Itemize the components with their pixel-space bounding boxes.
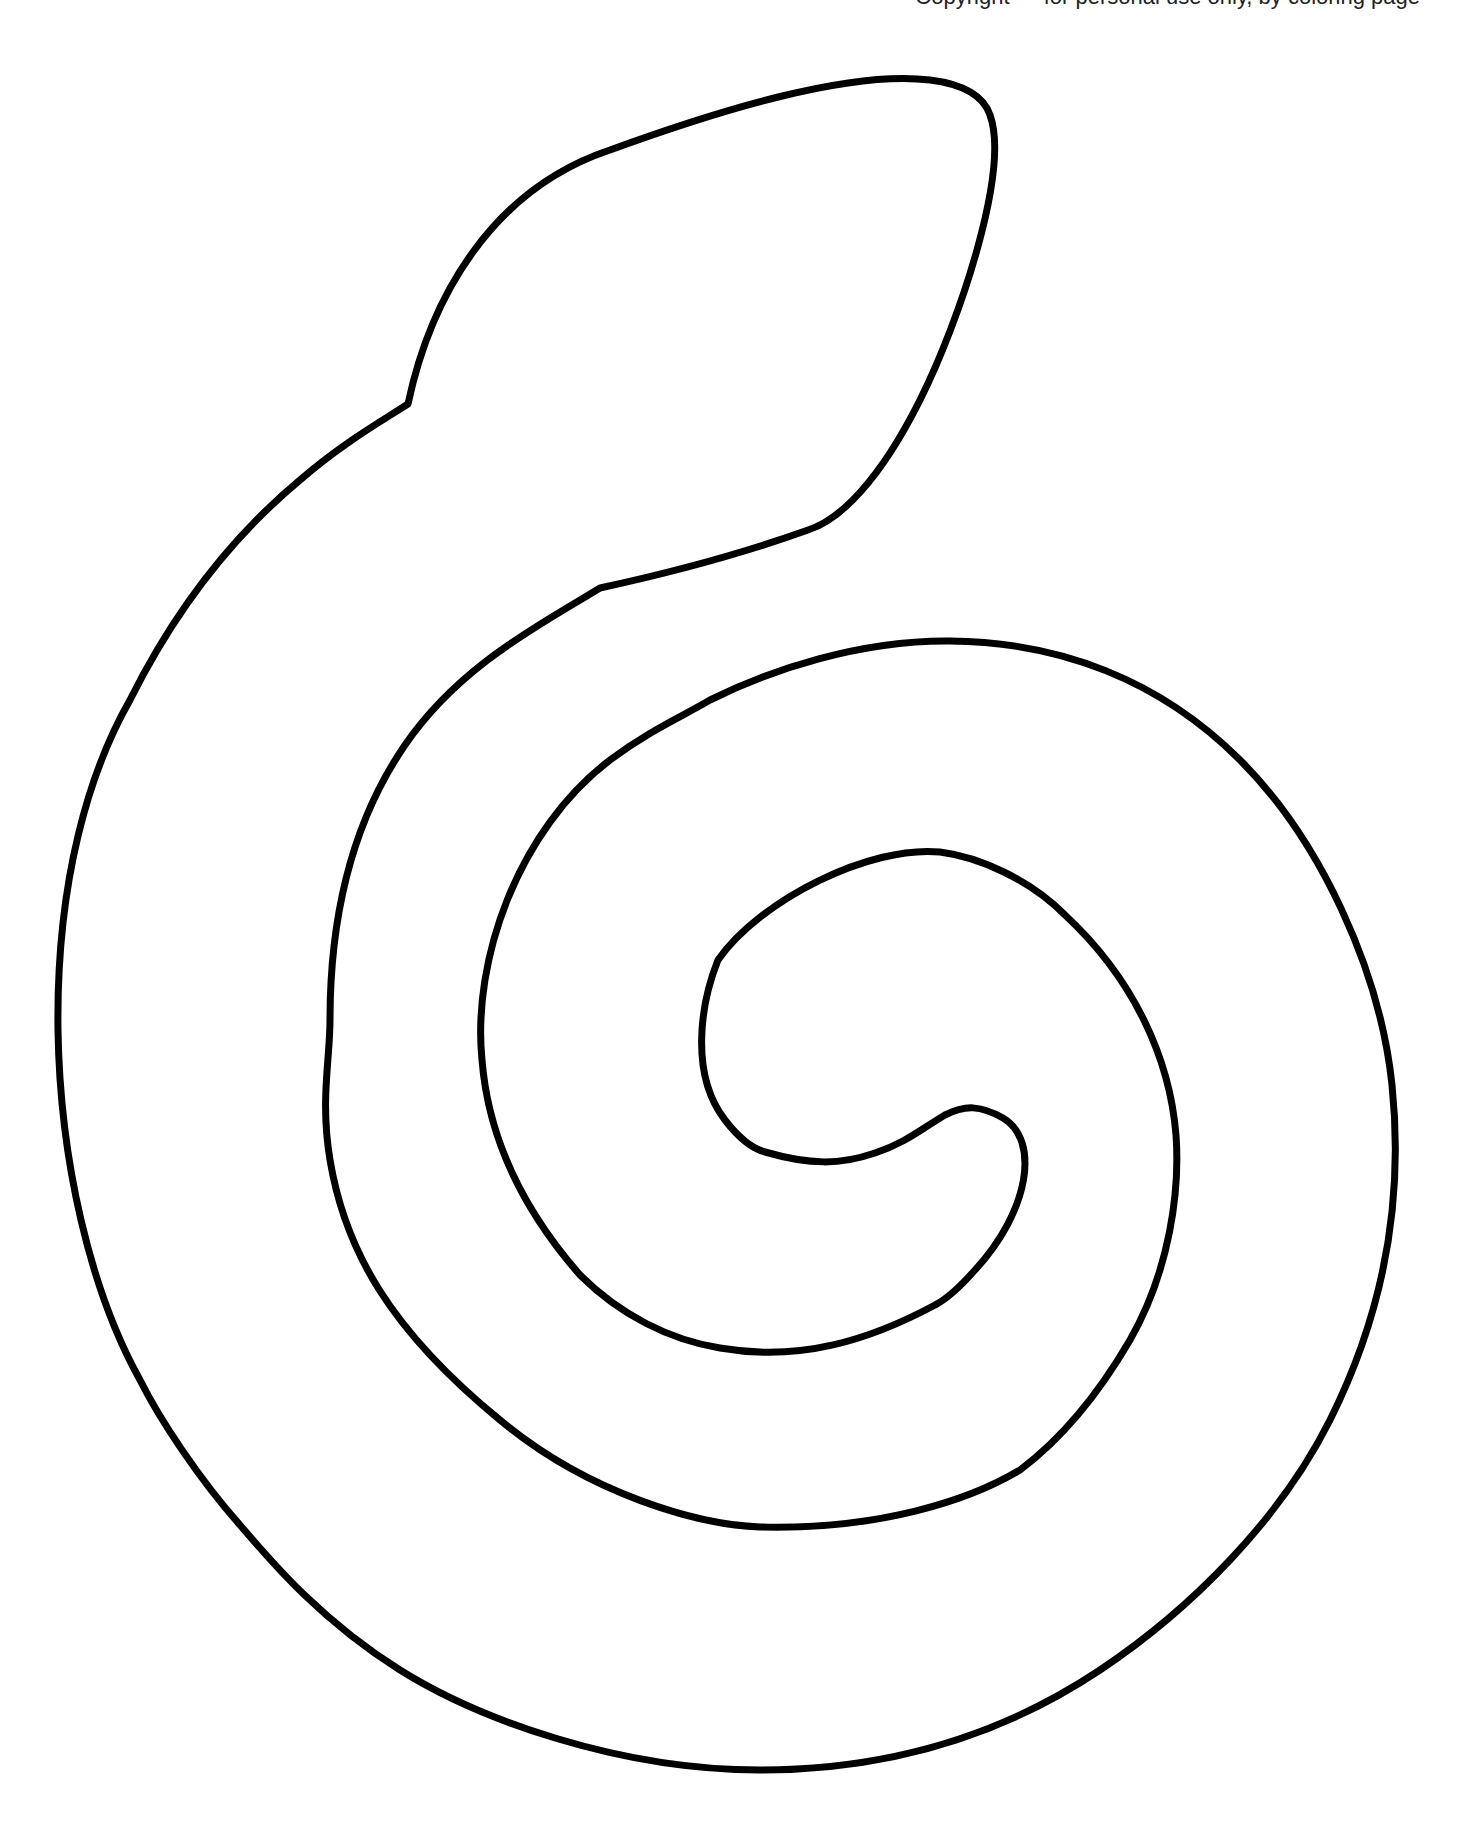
spiral-outline-path [58, 78, 1395, 1770]
spiral-outline-drawing [0, 0, 1460, 1831]
